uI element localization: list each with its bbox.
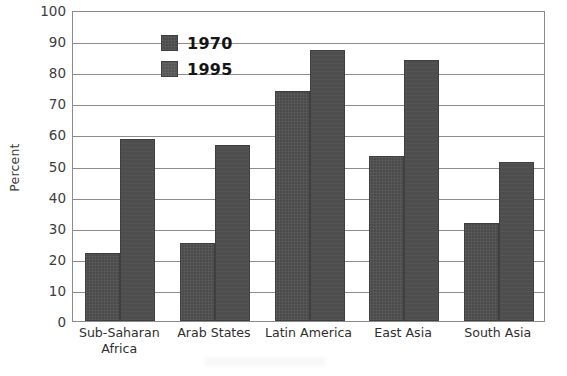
y-tick-label: 40 — [26, 190, 66, 206]
y-axis-title: Percent — [7, 123, 22, 213]
bar-1995-4 — [499, 162, 534, 321]
bar-1995-0 — [120, 139, 155, 321]
legend-swatch-icon-1970 — [161, 35, 178, 51]
x-tick-label: Arab States — [160, 325, 269, 341]
bars-layer — [73, 12, 544, 321]
legend-swatch-icon-1995 — [161, 61, 178, 77]
x-tick-label: South Asia — [443, 325, 552, 341]
y-tick-label: 50 — [26, 159, 66, 175]
bar-chart: Percent 0102030405060708090100 1970 1995… — [0, 0, 567, 376]
bar-1970-1 — [180, 243, 215, 321]
bar-1970-2 — [275, 91, 310, 321]
y-tick-label: 90 — [26, 34, 66, 50]
y-tick-label: 80 — [26, 65, 66, 81]
bar-1995-2 — [310, 50, 345, 321]
y-tick-label: 60 — [26, 127, 66, 143]
scan-artifact — [205, 357, 325, 366]
bar-1970-0 — [85, 253, 120, 321]
plot-area: 1970 1995 — [72, 11, 545, 322]
y-tick-label: 10 — [26, 283, 66, 299]
legend-label-1970: 1970 — [187, 34, 233, 53]
legend: 1970 1995 — [161, 30, 281, 82]
x-tick-label: Sub-Saharan Africa — [65, 325, 174, 356]
bar-1970-4 — [464, 223, 499, 321]
legend-label-1995: 1995 — [187, 60, 233, 79]
x-tick-label: Latin America — [254, 325, 363, 341]
y-tick-label: 100 — [26, 3, 66, 19]
y-tick-label: 70 — [26, 96, 66, 112]
y-tick-label: 20 — [26, 252, 66, 268]
legend-item-1995: 1995 — [161, 56, 281, 82]
bar-1995-1 — [215, 145, 250, 321]
y-tick-label: 30 — [26, 221, 66, 237]
y-tick-label: 0 — [26, 314, 66, 330]
bar-1970-3 — [369, 156, 404, 321]
y-axis-tick-labels: 0102030405060708090100 — [22, 11, 66, 322]
legend-item-1970: 1970 — [161, 30, 281, 56]
x-tick-label: East Asia — [349, 325, 458, 341]
bar-1995-3 — [404, 60, 439, 321]
